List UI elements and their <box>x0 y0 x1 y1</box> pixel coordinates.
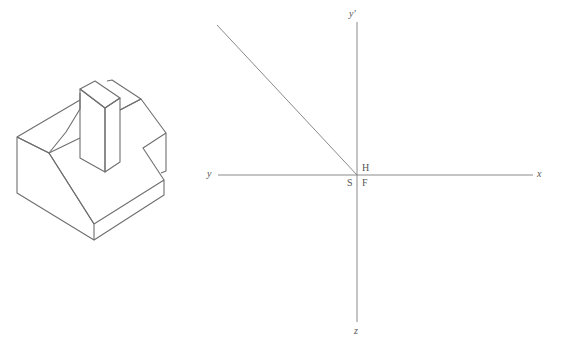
miter-line <box>217 25 357 175</box>
isometric-object <box>17 80 166 240</box>
projection-axes <box>217 22 533 322</box>
label-y: y <box>207 169 211 179</box>
diagram-canvas <box>0 0 563 346</box>
label-x: x <box>537 169 541 179</box>
label-s: S <box>347 178 353 188</box>
label-h: H <box>362 163 369 173</box>
label-z: z <box>354 326 358 336</box>
label-f: F <box>362 178 368 188</box>
label-y-prime: y' <box>349 9 356 19</box>
